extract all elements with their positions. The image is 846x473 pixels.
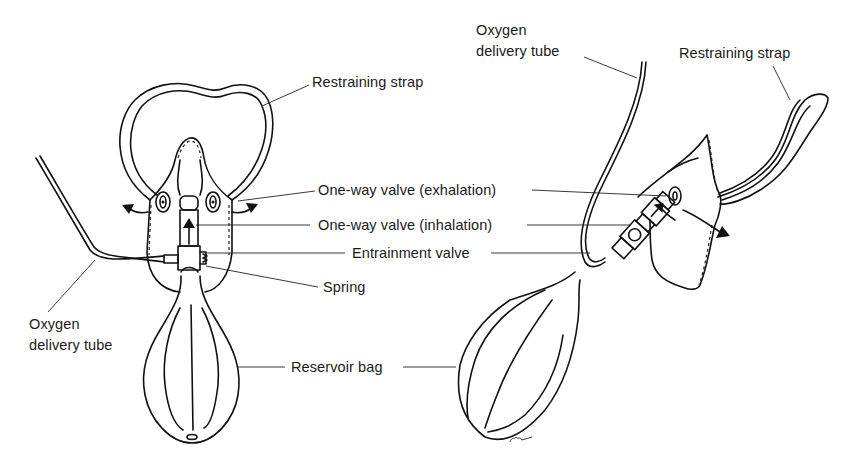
label-oxygen-delivery-tube-side-line1: Oxygen — [476, 20, 527, 40]
diagram-drawing — [0, 0, 846, 473]
front-oxygen-tube — [36, 156, 164, 262]
label-restraining-strap-side: Restraining strap — [679, 43, 790, 63]
front-restraining-strap-drawing — [120, 84, 273, 200]
side-restraining-strap-drawing — [718, 94, 828, 204]
label-restraining-strap-front: Restraining strap — [312, 72, 423, 92]
front-entrainment-valve — [164, 246, 207, 272]
side-reservoir-bag — [458, 272, 580, 442]
label-reservoir-bag: Reservoir bag — [291, 357, 383, 377]
front-inhalation-valve — [180, 196, 198, 246]
label-one-way-valve-exhalation: One-way valve (exhalation) — [318, 180, 496, 200]
side-oxygen-tube — [581, 62, 646, 267]
side-mask-illustration — [458, 62, 828, 442]
label-spring: Spring — [323, 277, 366, 297]
front-reservoir-bag — [143, 276, 239, 443]
label-oxygen-delivery-tube-front-line1: Oxygen — [29, 314, 80, 334]
diagram-stage: Restraining strap One-way valve (exhalat… — [0, 0, 846, 473]
label-entrainment-valve: Entrainment valve — [352, 243, 470, 263]
label-one-way-valve-inhalation: One-way valve (inhalation) — [318, 215, 492, 235]
front-mask-illustration — [36, 84, 273, 443]
label-oxygen-delivery-tube-side-line2: delivery tube — [476, 41, 560, 61]
label-oxygen-delivery-tube-front-line2: delivery tube — [29, 335, 113, 355]
leader-lines — [48, 57, 790, 367]
side-mask-body — [638, 135, 730, 289]
